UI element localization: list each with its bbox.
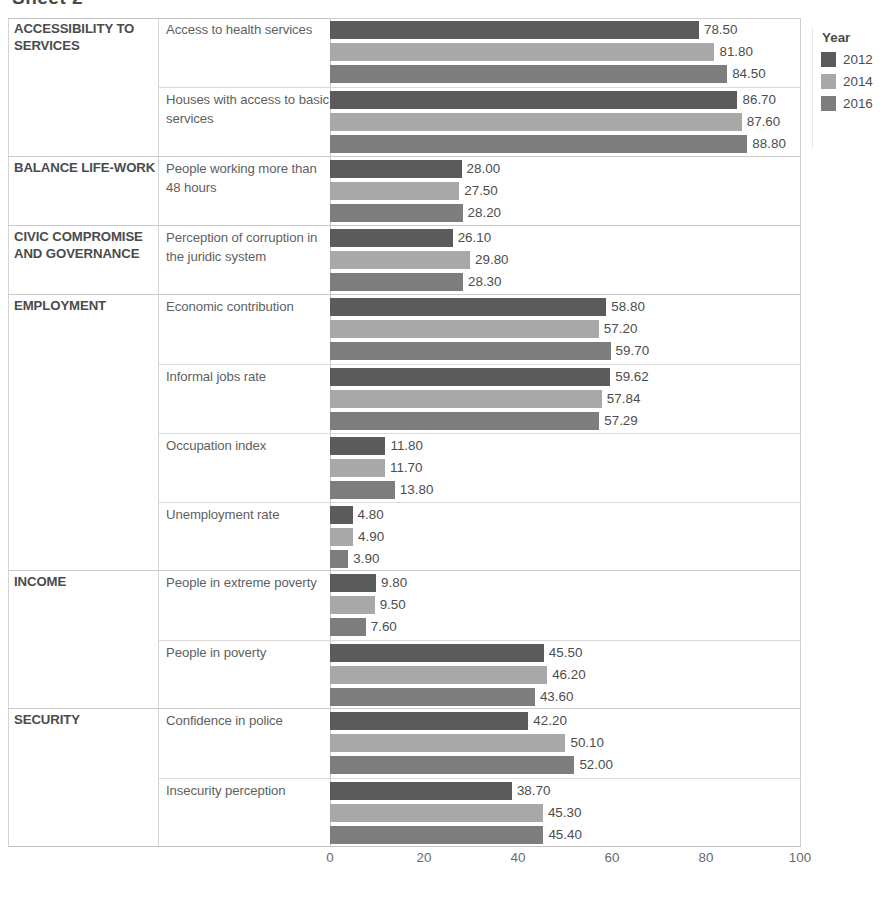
bar-2014[interactable]	[330, 666, 547, 684]
bar-2014[interactable]	[330, 320, 599, 338]
bar-row: 58.80	[330, 298, 801, 316]
x-axis-ticks: 020406080100	[330, 850, 801, 870]
bar-2016[interactable]	[330, 65, 727, 83]
bar-value-label: 43.60	[535, 688, 574, 706]
indicator-bars: 4.804.903.90	[330, 503, 801, 571]
bar-2012[interactable]	[330, 298, 606, 316]
bar-2012[interactable]	[330, 782, 512, 800]
legend-title: Year	[821, 30, 887, 45]
bar-value-label: 78.50	[699, 21, 738, 39]
indicator-row: Unemployment rate4.804.903.90	[158, 502, 801, 571]
bar-2012[interactable]	[330, 229, 453, 247]
bar-value-label: 86.70	[737, 91, 776, 109]
indicator-row: Informal jobs rate59.6257.8457.29	[158, 364, 801, 433]
bar-2014[interactable]	[330, 251, 470, 269]
bar-value-label: 58.80	[606, 298, 645, 316]
bar-2014[interactable]	[330, 734, 565, 752]
bar-value-label: 11.70	[385, 459, 423, 477]
bar-value-label: 87.60	[742, 113, 781, 131]
bar-value-label: 28.20	[463, 204, 502, 222]
bar-row: 26.10	[330, 229, 801, 247]
bar-2012[interactable]	[330, 644, 544, 662]
bar-row: 7.60	[330, 618, 801, 636]
bar-row: 13.80	[330, 481, 801, 499]
bar-value-label: 13.80	[395, 481, 434, 499]
bar-2012[interactable]	[330, 574, 376, 592]
bar-value-label: 9.50	[375, 596, 406, 614]
group-label: SECURITY	[14, 712, 160, 729]
indicator-label: Houses with access to basic services	[166, 90, 330, 128]
indicator-label: People in extreme poverty	[166, 573, 330, 592]
bar-2016[interactable]	[330, 618, 366, 636]
bar-2016[interactable]	[330, 481, 395, 499]
bar-2014[interactable]	[330, 804, 543, 822]
bar-row: 43.60	[330, 688, 801, 706]
bar-value-label: 84.50	[727, 65, 766, 83]
bar-2016[interactable]	[330, 342, 611, 360]
indicator-bars: 42.2050.1052.00	[330, 709, 801, 778]
indicator-label: Perception of corruption in the juridic …	[166, 228, 330, 266]
group-label: BALANCE LIFE-WORK	[14, 160, 160, 177]
legend-item-2012[interactable]: 2012	[821, 52, 887, 67]
bar-value-label: 27.50	[459, 182, 498, 200]
x-tick-label: 40	[511, 850, 526, 865]
bar-2014[interactable]	[330, 113, 742, 131]
legend-item-label: 2012	[843, 52, 873, 67]
x-tick-label: 80	[699, 850, 714, 865]
legend: Year 201220142016	[821, 30, 887, 118]
bar-2012[interactable]	[330, 506, 353, 524]
bar-2016[interactable]	[330, 273, 463, 291]
bar-2016[interactable]	[330, 135, 747, 153]
bar-2016[interactable]	[330, 204, 463, 222]
bar-row: 78.50	[330, 21, 801, 39]
x-tick-label: 100	[789, 850, 811, 865]
bar-value-label: 7.60	[366, 618, 397, 636]
bar-row: 28.30	[330, 273, 801, 291]
group-row: EMPLOYMENTEconomic contribution58.8057.2…	[8, 294, 801, 570]
indicator-bars: 45.5046.2043.60	[330, 641, 801, 709]
bar-row: 29.80	[330, 251, 801, 269]
bar-2012[interactable]	[330, 368, 610, 386]
bar-2014[interactable]	[330, 390, 602, 408]
indicator-row: People working more than 48 hours28.0027…	[158, 157, 801, 226]
bar-2016[interactable]	[330, 756, 574, 774]
bar-2016[interactable]	[330, 412, 599, 430]
bar-2012[interactable]	[330, 91, 737, 109]
bar-2014[interactable]	[330, 182, 459, 200]
bar-value-label: 42.20	[528, 712, 567, 730]
bar-row: 45.50	[330, 644, 801, 662]
bar-value-label: 28.30	[463, 273, 502, 291]
bar-value-label: 59.62	[610, 368, 649, 386]
group-row: BALANCE LIFE-WORKPeople working more tha…	[8, 156, 801, 225]
legend-item-label: 2016	[843, 96, 873, 111]
bar-2016[interactable]	[330, 688, 535, 706]
group-row: INCOMEPeople in extreme poverty9.809.507…	[8, 570, 801, 708]
legend-divider	[812, 28, 813, 148]
bar-row: 59.62	[330, 368, 801, 386]
bar-2014[interactable]	[330, 528, 353, 546]
bar-2014[interactable]	[330, 459, 385, 477]
legend-swatch-icon	[821, 74, 836, 89]
group-label: INCOME	[14, 574, 160, 591]
bar-2014[interactable]	[330, 43, 714, 61]
bar-2012[interactable]	[330, 21, 699, 39]
bar-value-label: 3.90	[348, 550, 379, 568]
bar-2012[interactable]	[330, 437, 385, 455]
group-label: CIVIC COMPROMISE AND GOVERNANCE	[14, 229, 160, 262]
bar-2012[interactable]	[330, 712, 528, 730]
bar-row: 28.00	[330, 160, 801, 178]
indicator-bars: 26.1029.8028.30	[330, 226, 801, 295]
indicator-row: Occupation index11.8011.7013.80	[158, 433, 801, 502]
bar-row: 57.20	[330, 320, 801, 338]
bar-value-label: 9.80	[376, 574, 407, 592]
bar-row: 9.80	[330, 574, 801, 592]
x-tick-label: 20	[417, 850, 432, 865]
bar-2016[interactable]	[330, 550, 348, 568]
indicator-row: People in extreme poverty9.809.507.60	[158, 571, 801, 640]
bar-2016[interactable]	[330, 826, 543, 844]
indicator-row: Economic contribution58.8057.2059.70	[158, 295, 801, 364]
bar-2012[interactable]	[330, 160, 462, 178]
legend-item-2014[interactable]: 2014	[821, 74, 887, 89]
bar-2014[interactable]	[330, 596, 375, 614]
legend-item-2016[interactable]: 2016	[821, 96, 887, 111]
